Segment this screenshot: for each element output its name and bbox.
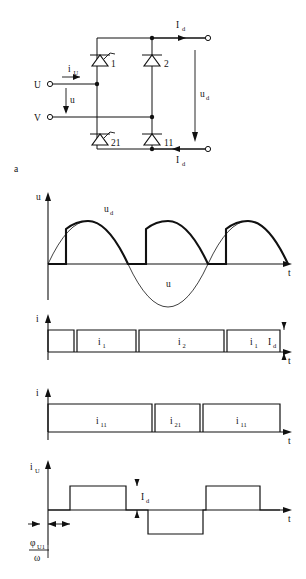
voltage-y-axis-label: u — [36, 192, 41, 202]
iu-id-label: I — [141, 492, 144, 502]
vcu-x-axis-label: t — [288, 356, 291, 366]
voltage-x-axis-label: t — [288, 268, 291, 278]
iu-x-axis-label: t — [288, 514, 291, 524]
terminal-v-label: V — [34, 113, 41, 123]
vcl-y-axis-label: i — [36, 388, 39, 398]
vcu-label-i2: i — [178, 337, 181, 347]
device-21-thyristor: 21 — [90, 132, 121, 148]
ud-curve-label-sub: d — [110, 209, 114, 216]
iu-label: i — [68, 64, 71, 74]
iu-id-label-sub: d — [146, 497, 150, 504]
ud-arrow-head — [192, 132, 198, 142]
iu-label-sub: U — [74, 69, 79, 76]
chart-line-current-iu: i U t I d φ U1 ω — [28, 460, 292, 563]
node-v — [150, 115, 154, 119]
circuit-diagram: U V i U u 1 2 — [14, 20, 211, 174]
dc-terminal-plus — [205, 35, 210, 40]
vcl-pulses — [48, 404, 280, 432]
id-top-label-sub: d — [182, 25, 186, 32]
vcl-label-i21-sub: 21 — [175, 421, 182, 428]
vcu-id-arrow-up — [282, 322, 287, 329]
chart-voltage-waveform: u t u u d — [36, 192, 292, 307]
vcu-id-label-sub: d — [273, 342, 277, 349]
device-1-thyristor: 1 — [90, 53, 116, 69]
iu-y-axis-label: i — [30, 462, 33, 472]
terminal-v-circle — [47, 114, 52, 119]
phase-denominator: ω — [34, 553, 40, 563]
ud-circuit-label: u — [200, 89, 205, 99]
id-bottom-label: I — [176, 155, 179, 165]
vcu-label-i1-second: i — [250, 337, 253, 347]
terminal-u-circle — [47, 81, 52, 86]
device-21-id: 21 — [111, 138, 121, 148]
vcu-label-i2-sub: 2 — [183, 342, 186, 349]
vcu-label-i1-second-sub: 1 — [255, 342, 258, 349]
vcu-pulses — [48, 330, 280, 352]
chart-valve-current-lower: i t i 11 i 21 i 11 — [36, 388, 292, 446]
vcl-label-i11-second: i — [236, 416, 239, 426]
device-1-id: 1 — [111, 59, 116, 69]
ud-curve-label: u — [104, 204, 109, 214]
vcu-label-i1-first: i — [98, 337, 101, 347]
u-label: u — [70, 95, 75, 105]
figure-label-a: a — [14, 164, 19, 174]
vcl-label-i11-first: i — [96, 416, 99, 426]
vcl-x-axis-arrow — [283, 429, 292, 435]
phase-arrow-right — [62, 521, 70, 527]
node-u — [95, 82, 99, 86]
sine-u-label: u — [166, 279, 171, 289]
voltage-y-axis-arrow — [45, 192, 51, 201]
phase-arrow-left — [48, 521, 56, 527]
id-top-label: I — [176, 20, 179, 30]
id-top-arrow-head — [178, 35, 186, 41]
phase-lead-arrow — [32, 521, 40, 527]
vcu-y-axis-label: i — [36, 314, 39, 324]
device-11-diode: 11 — [142, 134, 173, 148]
iu-x-axis-arrow — [283, 507, 292, 513]
vcl-label-i21: i — [170, 416, 173, 426]
iu-y-axis-label-sub: U — [35, 467, 40, 474]
id-bottom-label-sub: d — [182, 160, 186, 167]
phase-numerator-sub: U1 — [37, 543, 45, 550]
iu-y-axis-arrow — [45, 460, 51, 469]
vcl-x-axis-label: t — [288, 436, 291, 446]
ud-curve — [48, 221, 288, 264]
terminal-u-label: U — [34, 80, 41, 90]
vcu-y-axis-arrow — [45, 314, 51, 323]
phase-numerator: φ — [30, 538, 36, 548]
ud-circuit-label-sub: d — [206, 94, 210, 101]
device-11-id: 11 — [164, 138, 173, 148]
vcl-label-i11-second-sub: 11 — [241, 421, 247, 428]
figure-root: U V i U u 1 2 — [0, 0, 306, 579]
vcl-y-axis-arrow — [45, 388, 51, 397]
dc-terminal-minus — [205, 146, 210, 151]
u-arrow-head — [63, 106, 69, 114]
vcl-label-i11-first-sub: 11 — [101, 421, 107, 428]
iu-id-arrow-up — [135, 479, 140, 486]
vcu-label-i1-first-sub: 1 — [103, 342, 106, 349]
device-2-id: 2 — [164, 59, 169, 69]
vcu-id-label: I — [268, 337, 271, 347]
id-bottom-arrow-head — [172, 146, 180, 152]
chart-valve-current-upper: i t i 1 i 2 i 1 I d — [36, 314, 292, 366]
iu-id-arrow-down — [135, 511, 140, 518]
device-2-diode: 2 — [142, 55, 169, 69]
